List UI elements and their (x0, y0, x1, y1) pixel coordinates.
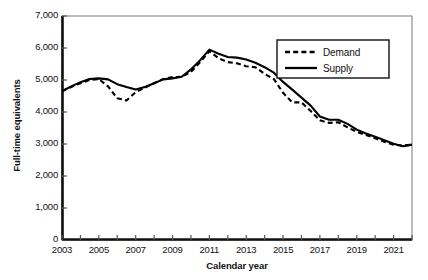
legend-label-demand: Demand (323, 47, 360, 58)
y-axis-tick-label: 0 (18, 233, 58, 244)
legend-label-supply: Supply (323, 63, 353, 74)
x-axis-tick-label: 2021 (372, 244, 416, 255)
y-axis-tick-label: 7,000 (18, 9, 58, 20)
chart-legend: DemandSupply (277, 40, 389, 78)
y-axis-tick-label: 6,000 (18, 41, 58, 52)
y-axis-tick-label: 5,000 (18, 73, 58, 84)
y-axis-tick-labels: 01,0002,0003,0004,0005,0006,0007,000 (14, 0, 58, 240)
y-axis-tick-label: 1,000 (18, 201, 58, 212)
line-chart-plot: DemandSupply (0, 0, 428, 280)
y-axis-tick-label: 2,000 (18, 169, 58, 180)
y-axis-tick-label: 4,000 (18, 105, 58, 116)
y-axis-tick-label: 3,000 (18, 137, 58, 148)
chart-figure: Full-time equivalents Calendar year 01,0… (0, 0, 428, 280)
x-axis-title: Calendar year (62, 260, 412, 271)
